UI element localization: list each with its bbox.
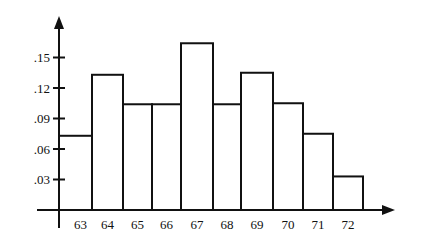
- x-tick-label: 67: [191, 217, 205, 232]
- x-tick-label: 69: [251, 217, 264, 232]
- bar-66: [152, 104, 181, 210]
- x-tick-label: 63: [74, 217, 87, 232]
- y-tick-label: .06: [34, 142, 51, 157]
- x-axis-arrow-icon: [382, 205, 395, 215]
- bar-71: [303, 134, 333, 210]
- x-tick-label: 72: [342, 217, 355, 232]
- bars: [59, 43, 363, 210]
- x-tick-labels: 63646566676869707172: [74, 217, 355, 232]
- x-tick-label: 71: [312, 217, 325, 232]
- x-tick-label: 65: [131, 217, 144, 232]
- y-tick-label: .03: [34, 172, 50, 187]
- y-tick-label: .15: [34, 50, 50, 65]
- bar-72: [333, 176, 363, 210]
- histogram-chart: .03.06.09.12.15 63646566676869707172: [0, 0, 421, 242]
- y-tick-label: .12: [34, 81, 50, 96]
- x-tick-label: 68: [221, 217, 234, 232]
- bar-70: [273, 103, 303, 210]
- bar-68: [213, 104, 241, 210]
- bar-65: [123, 104, 152, 210]
- y-axis-arrow-icon: [54, 16, 64, 29]
- x-tick-label: 64: [101, 217, 115, 232]
- bar-63: [59, 136, 92, 210]
- x-tick-label: 66: [160, 217, 174, 232]
- x-tick-label: 70: [282, 217, 295, 232]
- bar-67: [181, 43, 213, 210]
- y-tick-label: .09: [34, 111, 50, 126]
- bar-64: [92, 75, 123, 210]
- bar-69: [241, 73, 273, 210]
